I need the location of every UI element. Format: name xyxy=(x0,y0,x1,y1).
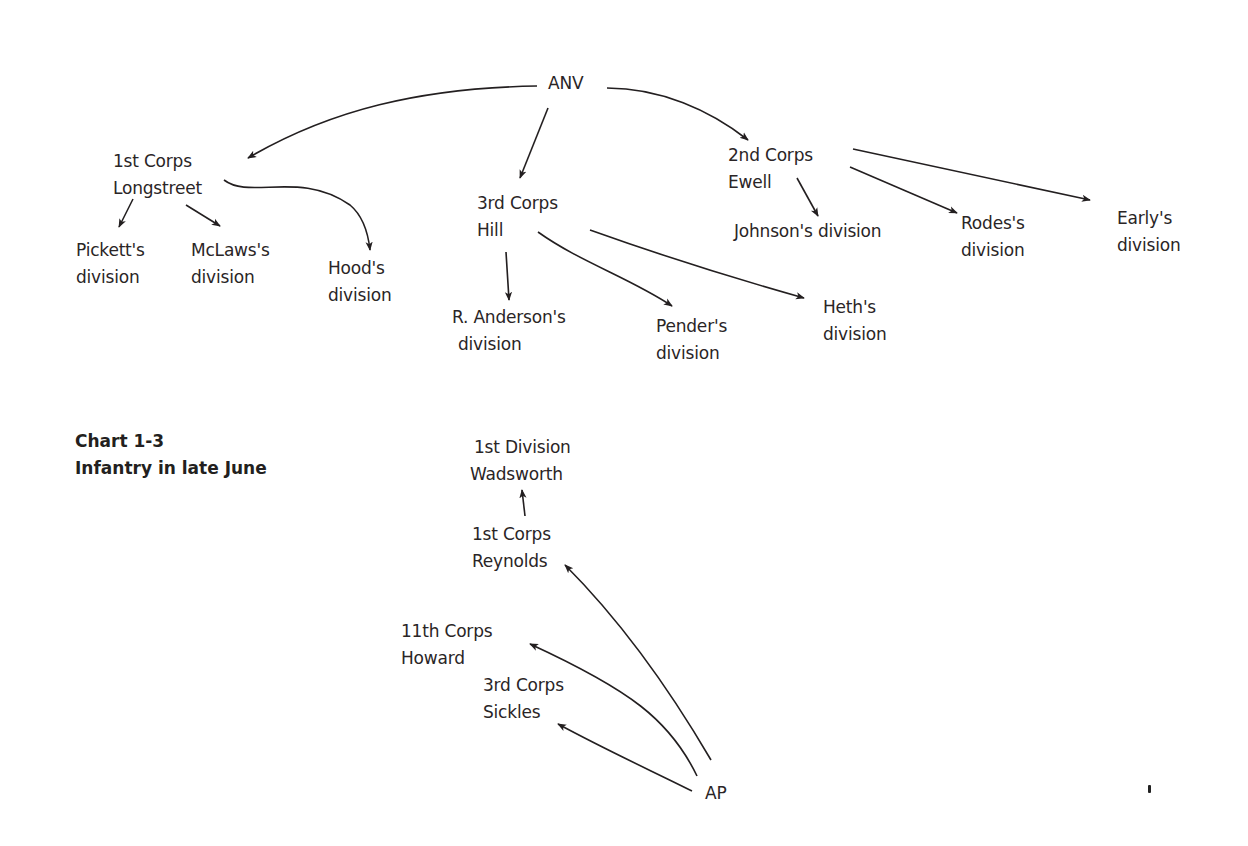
node-label-line1: Hood's xyxy=(328,255,391,282)
edge-ap-reynolds xyxy=(565,565,711,760)
node-anv: ANV xyxy=(548,70,583,97)
node-rodes-division: Rodes's division xyxy=(961,210,1025,264)
node-label-line1: R. Anderson's xyxy=(452,304,566,331)
chart-title-line2: Infantry in late June xyxy=(75,455,267,482)
node-heth-division: Heth's division xyxy=(823,294,886,348)
node-label-line1: Heth's xyxy=(823,294,886,321)
node-label-line2: Wadsworth xyxy=(470,461,571,488)
node-label-line1: 1st Corps xyxy=(113,148,202,175)
node-label-line1: Johnson's division xyxy=(734,218,881,245)
node-pender-division: Pender's division xyxy=(656,313,727,367)
node-label-line1: 3rd Corps xyxy=(483,672,564,699)
chart-title-line1: Chart 1-3 xyxy=(75,428,267,455)
ink-speck xyxy=(1148,785,1151,793)
edge-anv-longstreet xyxy=(248,86,537,158)
edge-longstreet-mclaws xyxy=(186,205,220,226)
node-1st-corps-longstreet: 1st Corps Longstreet xyxy=(113,148,202,202)
chart-title: Chart 1-3 Infantry in late June xyxy=(75,428,267,482)
node-label-line1: Pickett's xyxy=(76,237,145,264)
node-hood-division: Hood's division xyxy=(328,255,391,309)
edge-anv-ewell xyxy=(607,88,748,140)
node-pickett-division: Pickett's division xyxy=(76,237,145,291)
node-label-line1: 11th Corps xyxy=(401,618,492,645)
node-label-line2: Hill xyxy=(477,217,558,244)
node-label-line1: 3rd Corps xyxy=(477,190,558,217)
node-anderson-division: R. Anderson's division xyxy=(452,304,566,358)
node-label-line2: Howard xyxy=(401,645,492,672)
edge-anv-hill xyxy=(520,108,548,178)
node-mclaws-division: McLaws's division xyxy=(191,237,270,291)
node-label-line1: Early's xyxy=(1117,205,1180,232)
node-label-line2: division xyxy=(823,321,886,348)
node-label-line1: McLaws's xyxy=(191,237,270,264)
node-label-line1: 1st Division xyxy=(470,434,571,461)
node-label-line2: Reynolds xyxy=(472,548,551,575)
node-johnson-division: Johnson's division xyxy=(734,218,881,245)
node-label-line1: Pender's xyxy=(656,313,727,340)
node-11th-corps-howard: 11th Corps Howard xyxy=(401,618,492,672)
edge-hill-anderson xyxy=(506,252,509,300)
node-label-line1: 1st Corps xyxy=(472,521,551,548)
node-3rd-corps-hill: 3rd Corps Hill xyxy=(477,190,558,244)
node-label-line2: Longstreet xyxy=(113,175,202,202)
node-label-line2: division xyxy=(191,264,270,291)
node-label-line1: Rodes's xyxy=(961,210,1025,237)
node-2nd-corps-ewell: 2nd Corps Ewell xyxy=(728,142,813,196)
node-label-line2: division xyxy=(961,237,1025,264)
edge-ewell-early xyxy=(853,149,1090,200)
node-label-line2: division xyxy=(76,264,145,291)
node-early-division: Early's division xyxy=(1117,205,1180,259)
node-1st-corps-reynolds: 1st Corps Reynolds xyxy=(472,521,551,575)
node-ap: AP xyxy=(705,780,726,807)
edge-longstreet-pickett xyxy=(119,199,133,227)
edge-reynolds-wadsworth xyxy=(522,490,525,516)
edge-ap-sickles xyxy=(558,724,692,791)
node-anv-label: ANV xyxy=(548,70,583,97)
node-label-line2: Sickles xyxy=(483,699,564,726)
node-ap-label: AP xyxy=(705,780,726,807)
edge-ewell-rodes xyxy=(850,167,957,213)
node-label-line2: division xyxy=(656,340,727,367)
edges-layer xyxy=(0,0,1248,846)
node-3rd-corps-sickles: 3rd Corps Sickles xyxy=(483,672,564,726)
node-label-line2: division xyxy=(328,282,391,309)
node-label-line2: division xyxy=(452,331,566,358)
node-label-line1: 2nd Corps xyxy=(728,142,813,169)
edge-hill-pender xyxy=(538,232,672,306)
node-label-line2: division xyxy=(1117,232,1180,259)
node-1st-division-wadsworth: 1st Division Wadsworth xyxy=(470,434,571,488)
node-label-line2: Ewell xyxy=(728,169,813,196)
